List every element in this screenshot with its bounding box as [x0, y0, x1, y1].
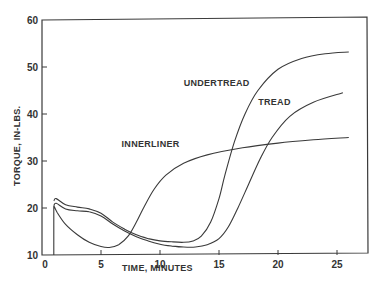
y-tick-label: 40: [27, 109, 39, 120]
x-tick-label: 0: [42, 259, 48, 270]
torque-vs-time-chart: 1020304050600510152025 UNDERTREADTREADIN…: [0, 0, 379, 285]
curve-innerliner: [54, 138, 349, 256]
series-labels: UNDERTREADTREADINNERLINER: [122, 78, 291, 149]
y-tick-label: 50: [27, 62, 39, 73]
x-tick-label: 20: [272, 259, 284, 270]
curve-tread: [54, 93, 343, 247]
plot-frame: [42, 17, 368, 255]
x-tick-label: 5: [98, 259, 104, 270]
y-tick-label: 10: [27, 250, 39, 261]
y-tick-label: 30: [27, 156, 39, 167]
x-tick-label: 25: [331, 259, 343, 270]
label-undertread: UNDERTREAD: [184, 78, 250, 88]
x-tick-label: 15: [213, 259, 225, 270]
plot-border: [42, 17, 368, 255]
label-innerliner: INNERLINER: [122, 139, 180, 149]
y-tick-label: 60: [27, 15, 39, 26]
y-tick-label: 20: [27, 203, 39, 214]
y-axis-title: TORQUE, IN-LBS.: [12, 106, 22, 186]
x-axis-title: TIME, MINUTES: [122, 263, 193, 273]
label-tread: TREAD: [258, 97, 291, 107]
